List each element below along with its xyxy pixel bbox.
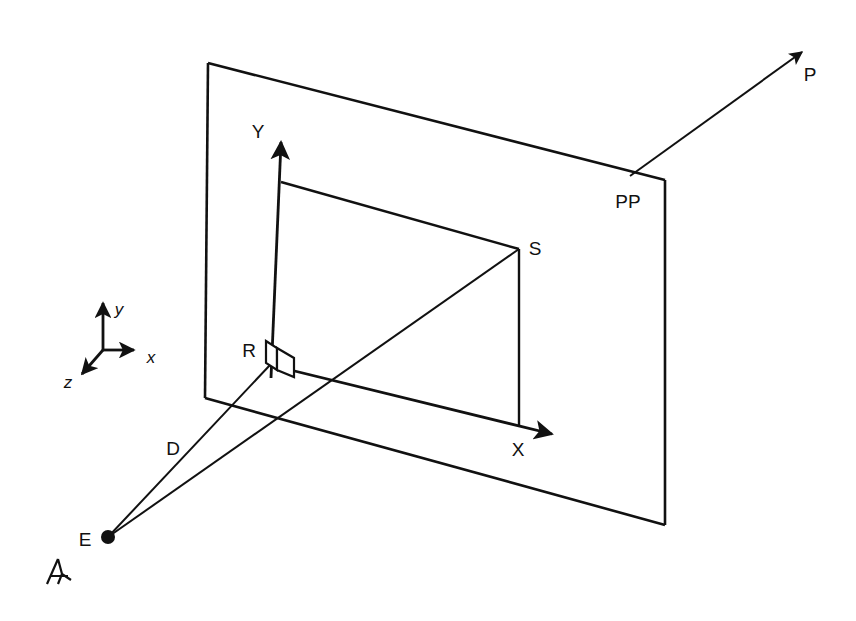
eye-point-marker xyxy=(101,530,115,544)
label-picture-plane: PP xyxy=(615,191,640,212)
ray-E-to-R-distance xyxy=(108,365,270,537)
screen-axes xyxy=(270,142,552,434)
axis-z-lower xyxy=(82,350,103,374)
ray-to-P xyxy=(630,52,802,176)
label-axis-X: X xyxy=(512,439,525,460)
projection-rays xyxy=(108,249,519,537)
label-axis-y-lower: y xyxy=(114,300,125,319)
axis-X-upper xyxy=(270,365,552,434)
picture-plane-bottom-edge xyxy=(205,398,665,525)
label-point-E: E xyxy=(79,529,92,550)
label-point-R: R xyxy=(242,340,256,361)
picture-plane-top-edge xyxy=(208,63,665,180)
rectangle-top-edge xyxy=(281,182,519,249)
signature-mark xyxy=(47,559,71,584)
axis-Y-upper xyxy=(271,142,281,378)
ray-E-to-S xyxy=(108,249,519,537)
corner-marker-left-face xyxy=(266,341,277,370)
label-point-P: P xyxy=(804,64,817,85)
diagram-canvas: PP P S R D E X Y x y z xyxy=(0,0,856,621)
image-rectangle xyxy=(281,182,519,425)
world-axis-triad xyxy=(82,303,134,374)
label-axis-Y: Y xyxy=(252,121,265,142)
label-axis-z-lower: z xyxy=(63,373,73,392)
label-distance-D: D xyxy=(166,438,180,459)
signature-glyph xyxy=(47,559,71,584)
perspective-projection-figure: PP P S R D E X Y x y z xyxy=(0,0,856,621)
label-axis-x-lower: x xyxy=(146,348,156,367)
picture-plane-left-edge xyxy=(205,63,208,398)
label-point-S: S xyxy=(529,238,542,259)
corner-marker-right-face xyxy=(277,348,294,377)
